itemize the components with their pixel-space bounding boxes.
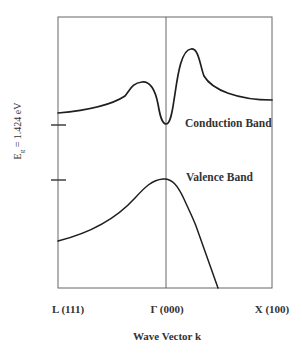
tick-label-L: L (111) (52, 304, 84, 315)
conduction-band-label: Conduction Band (185, 118, 272, 130)
band-diagram-canvas (0, 0, 302, 354)
conduction-band-curve (58, 49, 272, 124)
plot-frame (58, 17, 272, 288)
tick-label-gamma: Γ (000) (150, 304, 183, 315)
valence-band-label: Valence Band (186, 172, 253, 184)
valence-band-curve (58, 179, 218, 288)
x-axis-title: Wave Vector k (133, 331, 201, 342)
tick-label-X: X (100) (255, 304, 290, 315)
energy-gap-label: Eg = 1.424 eV (12, 103, 26, 160)
